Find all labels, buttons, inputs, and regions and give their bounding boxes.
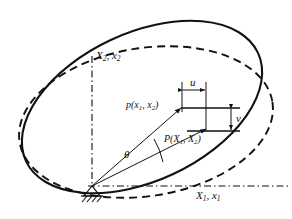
vertical-axis-label: X2, x2 — [96, 49, 121, 63]
theta-label: θ — [124, 148, 129, 160]
theta-arc — [154, 139, 163, 162]
v-label: v — [236, 112, 241, 124]
point-P-label: P(X1, X2) — [164, 133, 201, 145]
horizontal-axis-label: X1, x1 — [196, 189, 221, 203]
ray-to-deformed-point — [92, 108, 181, 186]
point-p-label: p(x1, x2) — [126, 99, 158, 111]
u-label: u — [190, 76, 196, 88]
figure-canvas: X2, x2 X1, x1 p(x1, x2) P(X1, X2) u v θ — [0, 0, 292, 219]
